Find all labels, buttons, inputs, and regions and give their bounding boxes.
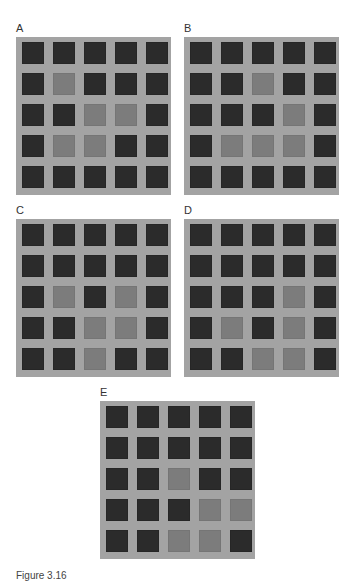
dark-cell-r3c0 (22, 135, 44, 157)
dark-cell-r0c4 (230, 406, 252, 428)
dark-cell-r4c4 (146, 166, 168, 188)
panel-label-b: B (184, 23, 191, 34)
dark-cell-r1c3 (283, 255, 305, 277)
dark-cell-r2c4 (146, 286, 168, 308)
dark-cell-r4c1 (53, 348, 75, 370)
dark-cell-r0c1 (53, 224, 75, 246)
dark-cell-r0c2 (84, 42, 106, 64)
dark-cell-r1c0 (106, 437, 128, 459)
dark-cell-r4c2 (84, 166, 106, 188)
dark-cell-r1c3 (283, 73, 305, 95)
dark-cell-r4c0 (190, 348, 212, 370)
grid-panel-e (100, 401, 255, 559)
dark-cell-r1c0 (190, 255, 212, 277)
dark-cell-r3c0 (190, 317, 212, 339)
dark-cell-r0c4 (314, 42, 336, 64)
dark-cell-r2c1 (221, 104, 243, 126)
dark-cell-r1c0 (190, 73, 212, 95)
dark-cell-r1c1 (137, 437, 159, 459)
light-cell-r2c1 (53, 286, 75, 308)
dark-cell-r1c2 (84, 73, 106, 95)
dark-cell-r2c1 (137, 468, 159, 490)
dark-cell-r1c2 (168, 437, 190, 459)
light-cell-r3c3 (115, 317, 137, 339)
dark-cell-r0c2 (168, 406, 190, 428)
dark-cell-r3c0 (190, 135, 212, 157)
dark-cell-r0c1 (53, 42, 75, 64)
light-cell-r4c3 (283, 348, 305, 370)
dark-cell-r4c0 (22, 166, 44, 188)
dark-cell-r2c4 (230, 468, 252, 490)
dark-cell-r3c2 (252, 317, 274, 339)
dark-cell-r3c0 (22, 317, 44, 339)
light-cell-r3c2 (84, 135, 106, 157)
dark-cell-r1c4 (314, 255, 336, 277)
dark-cell-r4c4 (314, 166, 336, 188)
dark-cell-r3c2 (168, 499, 190, 521)
dark-cell-r2c0 (106, 468, 128, 490)
dark-cell-r1c0 (22, 73, 44, 95)
dark-cell-r3c4 (314, 135, 336, 157)
dark-cell-r1c3 (115, 255, 137, 277)
grid-panel-a (16, 37, 171, 195)
panel-label-e: E (100, 387, 107, 398)
dark-cell-r4c1 (221, 166, 243, 188)
light-cell-r3c2 (84, 317, 106, 339)
dark-cell-r3c1 (137, 499, 159, 521)
grid-panel-c (16, 219, 171, 377)
dark-cell-r1c3 (199, 437, 221, 459)
dark-cell-r2c0 (22, 286, 44, 308)
dark-cell-r2c0 (190, 286, 212, 308)
dark-cell-r4c1 (221, 348, 243, 370)
grid-panel-b (184, 37, 339, 195)
dark-cell-r3c4 (146, 317, 168, 339)
dark-cell-r4c1 (53, 166, 75, 188)
dark-cell-r0c0 (22, 224, 44, 246)
dark-cell-r4c1 (137, 530, 159, 552)
dark-cell-r4c4 (146, 348, 168, 370)
dark-cell-r2c4 (314, 286, 336, 308)
panel-label-c: C (16, 205, 24, 216)
dark-cell-r2c4 (314, 104, 336, 126)
dark-cell-r4c3 (115, 166, 137, 188)
dark-cell-r2c1 (53, 104, 75, 126)
dark-cell-r1c4 (146, 255, 168, 277)
dark-cell-r0c2 (84, 224, 106, 246)
dark-cell-r1c2 (84, 255, 106, 277)
dark-cell-r2c4 (146, 104, 168, 126)
light-cell-r3c4 (230, 499, 252, 521)
panel-label-d: D (184, 205, 192, 216)
dark-cell-r0c1 (221, 224, 243, 246)
dark-cell-r0c2 (252, 224, 274, 246)
dark-cell-r0c2 (252, 42, 274, 64)
dark-cell-r2c1 (221, 286, 243, 308)
dark-cell-r1c1 (53, 255, 75, 277)
dark-cell-r4c0 (190, 166, 212, 188)
dark-cell-r0c0 (22, 42, 44, 64)
dark-cell-r0c0 (106, 406, 128, 428)
dark-cell-r1c2 (252, 255, 274, 277)
dark-cell-r1c0 (22, 255, 44, 277)
dark-cell-r0c0 (190, 224, 212, 246)
dark-cell-r4c3 (283, 166, 305, 188)
dark-cell-r0c3 (115, 42, 137, 64)
dark-cell-r2c0 (190, 104, 212, 126)
light-cell-r4c3 (199, 530, 221, 552)
dark-cell-r0c1 (137, 406, 159, 428)
dark-cell-r3c3 (115, 135, 137, 157)
light-cell-r2c2 (168, 468, 190, 490)
dark-cell-r1c1 (221, 73, 243, 95)
dark-cell-r2c0 (22, 104, 44, 126)
dark-cell-r2c2 (252, 286, 274, 308)
dark-cell-r4c4 (314, 348, 336, 370)
dark-cell-r0c3 (115, 224, 137, 246)
light-cell-r3c3 (283, 317, 305, 339)
dark-cell-r1c4 (314, 73, 336, 95)
light-cell-r3c3 (283, 135, 305, 157)
dark-cell-r0c3 (199, 406, 221, 428)
light-cell-r4c2 (84, 348, 106, 370)
light-cell-r4c2 (168, 530, 190, 552)
dark-cell-r0c3 (283, 42, 305, 64)
dark-cell-r4c0 (106, 530, 128, 552)
light-cell-r1c1 (53, 73, 75, 95)
